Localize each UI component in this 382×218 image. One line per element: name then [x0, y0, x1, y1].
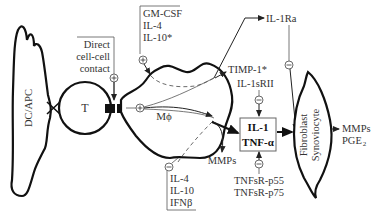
direct-contact-label-2: cell-cell — [76, 51, 110, 62]
stimulus-label-il4: IL-4 — [143, 20, 162, 31]
tnfsr-p55-label: TNFsR-p55 — [234, 175, 284, 186]
inhibitor-label-ifnb: IFNβ — [170, 197, 192, 208]
dc-apc-label: DC/APC — [23, 89, 34, 127]
stimulus-label-gmcsf: GM-CSF — [143, 8, 182, 19]
timp-label: TIMP-1* — [228, 64, 267, 75]
direct-contact-label-3: contact — [80, 63, 110, 74]
tnfsr-p75-label: TNFsR-p75 — [234, 187, 284, 198]
il1ra-label: IL-1Ra — [266, 13, 297, 24]
minus-sign-icon — [285, 61, 293, 69]
t-cell-label: T — [81, 101, 89, 115]
plus-sign-icon — [136, 104, 144, 112]
fibroblast-label: Fibroblast — [298, 114, 309, 157]
synoviocyte-label: Synoviocyte — [310, 108, 321, 161]
minus-sign-icon — [255, 96, 263, 104]
output-pge-label: PGE2 — [342, 135, 367, 148]
plus-sign-icon — [139, 56, 147, 64]
stimulus-label-il10: IL-10* — [143, 32, 172, 43]
inhibitor-label-il4: IL-4 — [170, 173, 189, 184]
macrophage-label: Mϕ — [156, 110, 172, 122]
inhibitor-label-il10: IL-10 — [170, 185, 194, 196]
mmps-macrophage-label: MMPs — [208, 155, 237, 166]
tnf-box-label: TNF-α — [242, 136, 275, 148]
output-mmps-label: MMPs — [342, 123, 371, 134]
minus-sign-icon — [165, 163, 173, 171]
diagram-canvas: DC/APC T Mϕ Direct cell-cell contact GM-… — [0, 0, 382, 218]
il1-box-label: IL-1 — [248, 121, 269, 133]
direct-contact-label-1: Direct — [84, 39, 110, 50]
il1srii-label: IL-1sRII — [237, 78, 274, 89]
plus-sign-icon — [110, 74, 118, 82]
minus-sign-icon — [255, 160, 263, 168]
receptor-block-t — [105, 104, 115, 113]
